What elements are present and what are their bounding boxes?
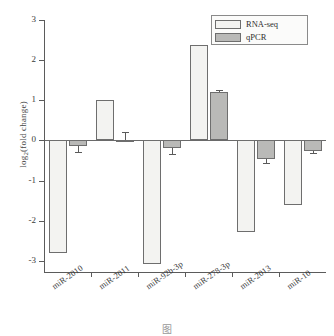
x-tick-4 — [232, 272, 233, 277]
y-tick-label-2: 2 — [32, 54, 37, 64]
y-tick-2: 2 — [39, 60, 45, 61]
y-tick-0: 0 — [39, 140, 45, 141]
x-tick-3 — [185, 272, 186, 277]
y-tick-neg1: -1 — [39, 181, 45, 182]
legend-label-qpcr: qPCR — [246, 32, 266, 42]
y-tick-label-0: 0 — [32, 134, 37, 144]
x-tick-5 — [279, 272, 280, 277]
y-tick-label-neg2: -2 — [29, 215, 37, 225]
y-tick-neg3: -3 — [39, 261, 45, 262]
bar-mir-2010-rna-seq — [49, 140, 67, 252]
bar-mir-278-3p-rna-seq — [190, 45, 208, 141]
x-tick-1 — [91, 272, 92, 277]
y-axis-line — [44, 20, 45, 273]
y-axis-label-subscript: 2 — [22, 152, 30, 156]
bar-mir-10-qpcr — [304, 140, 322, 150]
error-cap-mir-2013-qpcr — [263, 163, 270, 164]
legend-swatch-rna-seq — [215, 20, 241, 29]
legend-item-rna-seq: RNA-seq — [215, 18, 304, 30]
bar-mir-2013-rna-seq — [237, 140, 255, 232]
y-tick-3: 3 — [39, 20, 45, 21]
error-cap-mir-10-qpcr — [310, 153, 317, 154]
y-tick-label-1: 1 — [32, 94, 37, 104]
y-tick-neg2: -2 — [39, 221, 45, 222]
bar-mir-10-rna-seq — [284, 140, 302, 204]
error-cap-mir-2011-qpcr — [122, 132, 129, 133]
y-tick-label-neg1: -1 — [29, 175, 37, 185]
bar-mir-2011-rna-seq — [96, 100, 114, 140]
error-cap-mir-278-3p-qpcr — [216, 90, 223, 91]
figure-caption: 图 — [0, 321, 334, 336]
y-axis-label-rest: (fold change) — [18, 101, 28, 152]
y-tick-label-neg3: -3 — [29, 255, 37, 265]
bar-mir-2013-qpcr — [257, 140, 275, 158]
error-bar-mir-2011-qpcr — [125, 132, 126, 140]
legend-item-qpcr: qPCR — [215, 31, 304, 43]
legend: RNA-seq qPCR — [211, 15, 308, 45]
error-cap-mir-92b-3p-qpcr — [169, 154, 176, 155]
bar-mir-92b-3p-qpcr — [163, 140, 181, 147]
bar-mir-278-3p-qpcr — [210, 92, 228, 140]
error-cap-mir-2010-qpcr — [75, 152, 82, 153]
x-tick-2 — [138, 272, 139, 277]
plot-area: 3210-1-2-3 — [44, 20, 326, 273]
y-tick-1: 1 — [39, 100, 45, 101]
legend-swatch-qpcr — [215, 33, 241, 42]
bar-mir-2011-qpcr — [116, 140, 134, 142]
legend-label-rna-seq: RNA-seq — [246, 19, 278, 29]
bar-mir-92b-3p-rna-seq — [143, 140, 161, 263]
y-tick-label-3: 3 — [32, 14, 37, 24]
y-axis-label-base: log — [18, 156, 28, 168]
